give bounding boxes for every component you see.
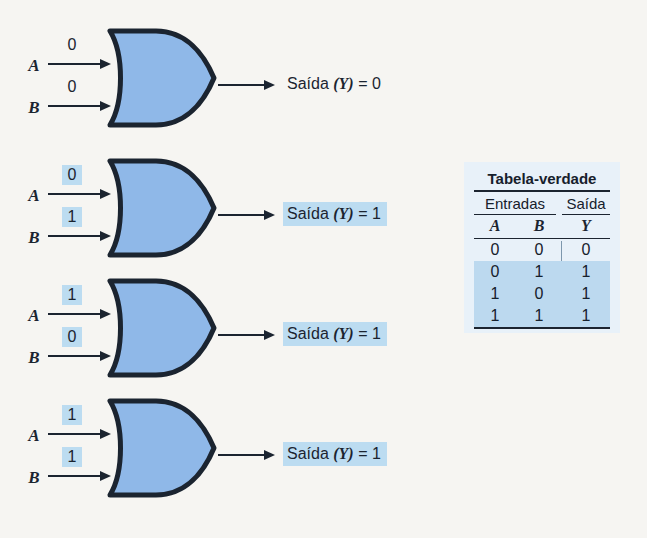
output-variable: (Y) [333,325,353,342]
input-b-value: 0 [62,327,82,347]
column-header-b: B [516,217,562,235]
output-arrow-icon [264,210,275,220]
input-b-wire [48,475,106,477]
or-gate-truth-table-figure: A B 0 0 Saída (Y) = 0 A B 0 1 [0,0,647,538]
input-a-wire [48,433,106,435]
input-a-wire [48,193,106,195]
input-a-label: A [26,186,42,206]
table-row: 0 1 1 [474,261,610,283]
input-a-wire [48,313,106,315]
input-b-label: B [26,468,42,488]
input-a-value: 0 [62,35,82,55]
output-equals: = [358,325,367,342]
truth-table-body: 0 0 0 0 1 1 1 0 1 1 1 1 [474,239,610,329]
input-b-value: 0 [62,77,82,97]
output-wire [218,84,270,86]
truth-table-column-headers: A B Y [474,215,610,239]
or-gate-symbol-icon [104,156,220,264]
output-variable: (Y) [333,75,353,92]
cell-y: 1 [562,283,610,305]
output-value: 1 [372,325,381,342]
table-row: 1 0 1 [474,283,610,305]
input-a-wire [48,63,106,65]
cell-b: 1 [516,305,562,327]
cell-y: 0 [562,239,610,261]
cell-a: 1 [474,305,516,327]
table-row: 1 1 1 [474,305,610,327]
or-gate-symbol-icon [104,396,220,504]
output-arrow-icon [264,450,275,460]
truth-table: Tabela-verdade Entradas Saída A B Y 0 0 … [464,162,620,333]
output-arrow-icon [264,330,275,340]
input-b-wire [48,105,106,107]
cell-a: 0 [474,239,516,261]
group-header-inputs: Entradas [474,195,556,215]
input-a-label: A [26,56,42,76]
output-text: Saída (Y) = 1 [283,322,387,346]
cell-b: 0 [516,283,562,305]
output-value: 1 [372,205,381,222]
input-a-value: 0 [62,165,82,185]
input-b-value: 1 [62,207,82,227]
truth-table-title: Tabela-verdade [474,168,610,192]
output-variable: (Y) [333,445,353,462]
input-b-wire [48,235,106,237]
column-header-a: A [474,217,516,235]
gate-row: A B 1 0 Saída (Y) = 1 [0,268,460,388]
input-b-label: B [26,228,42,248]
output-value: 0 [372,75,381,92]
output-equals: = [358,445,367,462]
cell-a: 0 [474,261,516,283]
table-row: 0 0 0 [474,239,610,261]
input-a-value: 1 [62,285,82,305]
output-variable: (Y) [333,205,353,222]
output-prefix: Saída [287,75,329,92]
output-equals: = [358,205,367,222]
input-b-label: B [26,348,42,368]
output-text: Saída (Y) = 1 [283,202,387,226]
output-prefix: Saída [287,325,329,342]
input-b-label: B [26,98,42,118]
input-a-label: A [26,426,42,446]
output-text: Saída (Y) = 1 [283,442,387,466]
output-wire [218,334,270,336]
or-gate-symbol-icon [104,26,220,134]
cell-y: 1 [562,261,610,283]
input-a-value: 1 [62,405,82,425]
input-b-wire [48,355,106,357]
input-a-label: A [26,306,42,326]
truth-table-group-headers: Entradas Saída [474,192,610,215]
gate-row: A B 0 0 Saída (Y) = 0 [0,18,460,138]
output-equals: = [358,75,367,92]
gate-row: A B 1 1 Saída (Y) = 1 [0,388,460,508]
cell-a: 1 [474,283,516,305]
input-b-value: 1 [62,447,82,467]
group-header-output: Saída [562,195,610,215]
output-wire [218,214,270,216]
output-prefix: Saída [287,205,329,222]
output-arrow-icon [264,80,275,90]
output-text: Saída (Y) = 0 [283,72,387,96]
output-wire [218,454,270,456]
or-gate-symbol-icon [104,276,220,384]
column-header-y: Y [562,217,610,235]
gate-row: A B 0 1 Saída (Y) = 1 [0,148,460,268]
output-prefix: Saída [287,445,329,462]
cell-b: 1 [516,261,562,283]
output-value: 1 [372,445,381,462]
cell-y: 1 [562,305,610,327]
cell-b: 0 [516,239,562,261]
